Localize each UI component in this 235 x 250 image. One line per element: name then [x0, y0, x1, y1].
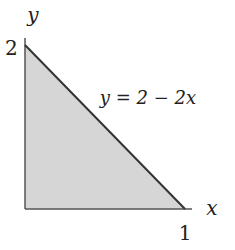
curve-label: y = 2 − 2x: [99, 87, 196, 108]
triangle-diagram: y 2 y = 2 − 2x x 1: [0, 0, 235, 250]
x-intercept-label: 1: [179, 221, 192, 245]
y-axis-label: y: [26, 3, 39, 27]
y-intercept-label: 2: [5, 36, 18, 60]
x-axis-label: x: [206, 196, 217, 220]
